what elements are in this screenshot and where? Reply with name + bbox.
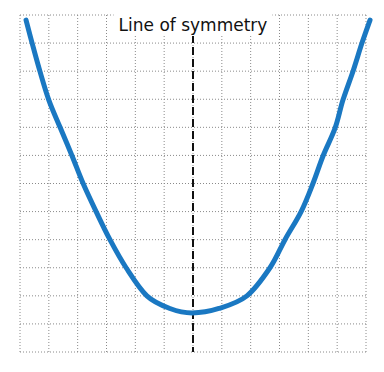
- line-of-symmetry-label: Line of symmetry: [119, 15, 268, 35]
- parabola-diagram: Line of symmetry: [0, 0, 384, 372]
